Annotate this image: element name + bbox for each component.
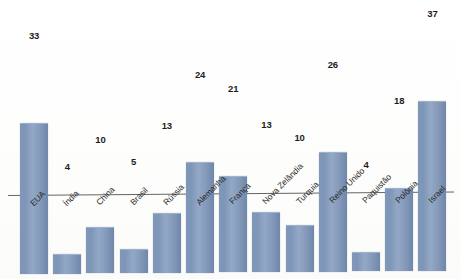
bar-rect bbox=[319, 152, 347, 271]
bar-rect bbox=[286, 225, 314, 272]
bar-brasil bbox=[120, 250, 148, 273]
bar-value-label: 13 bbox=[252, 119, 280, 130]
bar-índia bbox=[53, 255, 81, 273]
bar-value-label: 18 bbox=[385, 95, 413, 106]
bar-rect bbox=[352, 252, 380, 271]
bar-china bbox=[86, 228, 114, 274]
bar-nova-zelândia bbox=[252, 213, 280, 272]
bar-rect bbox=[252, 212, 280, 272]
bar-value-label: 21 bbox=[219, 83, 247, 94]
bar-rect bbox=[53, 254, 81, 273]
bar-turquia bbox=[286, 226, 314, 272]
bar-rússia bbox=[153, 214, 181, 273]
bar-value-label: 5 bbox=[120, 156, 148, 167]
bar-rect bbox=[86, 227, 114, 274]
bar-value-label: 4 bbox=[53, 161, 81, 172]
bar-value-label: 37 bbox=[418, 8, 446, 19]
bar-paquistão bbox=[352, 253, 380, 271]
bar-value-label: 10 bbox=[286, 132, 314, 143]
bar-value-label: 24 bbox=[186, 69, 214, 80]
bar-rect bbox=[153, 213, 181, 273]
bar-value-label: 13 bbox=[153, 120, 181, 131]
bar-reino-unido bbox=[319, 153, 347, 271]
bar-value-label: 10 bbox=[86, 134, 114, 145]
bar-rect bbox=[186, 162, 214, 272]
bar-value-label: 33 bbox=[20, 30, 48, 41]
bar-value-label: 26 bbox=[319, 59, 347, 70]
bar-alemanha bbox=[186, 163, 214, 272]
bar-chart: 33410513242113102641837 EUAÍndiaChinaBra… bbox=[0, 0, 460, 279]
bar-rect bbox=[120, 249, 148, 273]
